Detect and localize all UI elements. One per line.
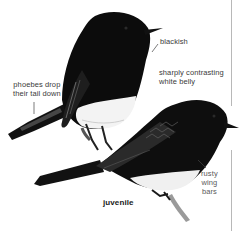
label-tail-line1: phoebes drop <box>13 80 61 89</box>
adult-eye <box>124 26 127 29</box>
label-belly-line2: white belly <box>159 77 224 86</box>
juvenile-tail <box>34 160 104 186</box>
juvenile-feet <box>152 190 170 200</box>
label-belly-line1: sharply contrasting <box>159 68 224 77</box>
label-rusty-wing-bars: rusty wing bars <box>201 169 218 196</box>
label-tail-line2: their tail down <box>13 89 61 98</box>
label-rusty-line2: wing <box>201 178 218 187</box>
right-rule-bottom <box>231 150 232 231</box>
juvenile-bill <box>224 122 239 128</box>
label-blackish-text: blackish <box>160 37 188 46</box>
label-rusty-line3: bars <box>201 187 218 196</box>
twig <box>168 194 190 222</box>
juvenile-eye <box>213 115 216 118</box>
label-white-belly: sharply contrasting white belly <box>159 68 224 86</box>
leader-blackish <box>152 44 158 52</box>
right-rule-top <box>231 0 232 106</box>
label-rusty-line1: rusty <box>201 169 218 178</box>
label-juvenile: juvenile <box>103 198 134 207</box>
bird-illustration <box>0 0 240 231</box>
label-tail-drop: phoebes drop their tail down <box>13 80 61 98</box>
label-blackish: blackish <box>160 37 188 46</box>
label-juvenile-text: juvenile <box>103 198 134 207</box>
